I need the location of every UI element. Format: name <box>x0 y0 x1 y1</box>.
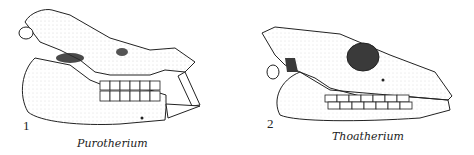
figure-caption-1: Purotherium <box>77 137 148 150</box>
orbit <box>347 43 379 71</box>
figure-number-1: 1 <box>23 118 30 134</box>
infraorbital-foramen <box>382 79 385 82</box>
orbit <box>56 53 84 63</box>
mental-foramen <box>141 117 144 120</box>
occipital-condyle <box>19 27 33 39</box>
figure-purotherium: 1 Purotherium <box>0 0 240 155</box>
upper-incisor <box>178 72 200 106</box>
nasal-opening <box>116 48 128 56</box>
lower-teeth <box>100 91 160 101</box>
upper-teeth <box>325 95 409 102</box>
lower-teeth <box>328 102 412 109</box>
figure-caption-2: Thoatherium <box>332 130 404 143</box>
upper-teeth <box>100 81 160 90</box>
figure-number-2: 2 <box>267 116 274 132</box>
purotherium-skull-drawing <box>0 0 240 155</box>
figure-thoatherium: 2 Thoatherium <box>240 0 474 155</box>
occipital-condyle <box>267 65 279 79</box>
lower-incisor <box>166 104 200 118</box>
